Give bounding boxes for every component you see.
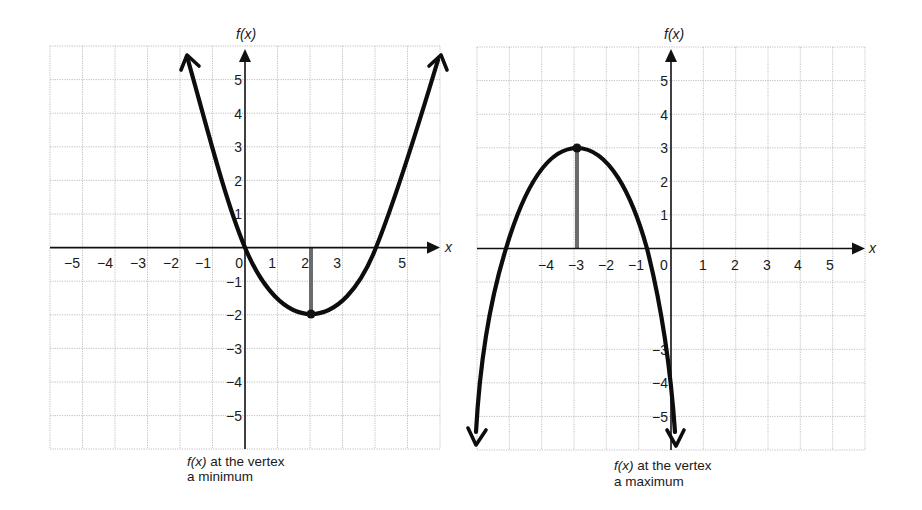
svg-text:2: 2 (301, 255, 309, 271)
svg-text:1: 1 (268, 255, 276, 271)
left-vertex-point (307, 310, 316, 319)
svg-text:−4: −4 (97, 255, 113, 271)
svg-text:1: 1 (660, 207, 668, 223)
svg-text:2: 2 (731, 257, 739, 273)
svg-text:1: 1 (699, 257, 707, 273)
svg-text:−3: −3 (130, 255, 146, 271)
svg-text:−4: −4 (226, 374, 242, 390)
svg-text:−1: −1 (226, 274, 242, 290)
figure-canvas: f(x) x −5 −4 −3 −2 −1 0 1 2 3 5 5 4 3 2 … (0, 0, 922, 510)
svg-text:4: 4 (660, 107, 668, 123)
svg-text:3: 3 (763, 257, 771, 273)
svg-text:5: 5 (660, 73, 668, 89)
right-caption-line1: f(x) at the vertex (614, 458, 712, 474)
right-x-tick-labels: −4 −3 −2 −1 0 1 2 3 4 5 (538, 257, 834, 273)
right-y-axis-arrow-icon (665, 49, 677, 62)
svg-text:2: 2 (660, 174, 668, 190)
left-caption-line1: f(x) at the vertex (187, 454, 285, 469)
right-y-axis-label: f(x) (664, 26, 684, 42)
svg-text:−4: −4 (538, 257, 554, 273)
svg-text:5: 5 (826, 257, 834, 273)
svg-text:−3: −3 (568, 257, 584, 273)
svg-text:−5: −5 (652, 409, 668, 425)
svg-text:−2: −2 (226, 307, 242, 323)
svg-text:5: 5 (234, 72, 242, 88)
right-caption: f(x) at the vertex a maximum (614, 458, 712, 490)
svg-text:0: 0 (660, 257, 668, 273)
svg-text:2: 2 (234, 173, 242, 189)
svg-text:−1: −1 (195, 255, 211, 271)
left-graph: f(x) x −5 −4 −3 −2 −1 0 1 2 3 5 5 4 3 2 … (50, 26, 453, 449)
svg-text:4: 4 (794, 257, 802, 273)
right-graph: f(x) x −4 −3 −2 −1 0 1 2 3 4 5 5 4 3 2 1… (468, 26, 877, 450)
svg-text:−1: −1 (628, 257, 644, 273)
left-y-axis-arrow-icon (239, 49, 251, 62)
svg-text:−5: −5 (226, 408, 242, 424)
svg-text:3: 3 (234, 139, 242, 155)
svg-text:3: 3 (333, 255, 341, 271)
svg-text:−5: −5 (64, 255, 80, 271)
right-x-axis-label: x (868, 240, 877, 256)
svg-text:−3: −3 (226, 341, 242, 357)
svg-text:−4: −4 (652, 375, 668, 391)
svg-text:0: 0 (235, 255, 243, 271)
svg-text:5: 5 (398, 255, 406, 271)
svg-text:4: 4 (234, 106, 242, 122)
svg-text:−2: −2 (598, 257, 614, 273)
left-x-axis-label: x (444, 239, 453, 255)
left-caption: f(x) at the vertex a minimum (187, 454, 285, 484)
left-caption-line2: a minimum (187, 469, 285, 484)
left-x-axis-arrow-icon (427, 242, 440, 254)
right-caption-line2: a maximum (614, 474, 712, 490)
right-x-axis-arrow-icon (852, 242, 865, 254)
svg-text:3: 3 (660, 140, 668, 156)
svg-text:−2: −2 (163, 255, 179, 271)
left-y-axis-label: f(x) (236, 26, 256, 42)
right-vertex-point (573, 144, 582, 153)
